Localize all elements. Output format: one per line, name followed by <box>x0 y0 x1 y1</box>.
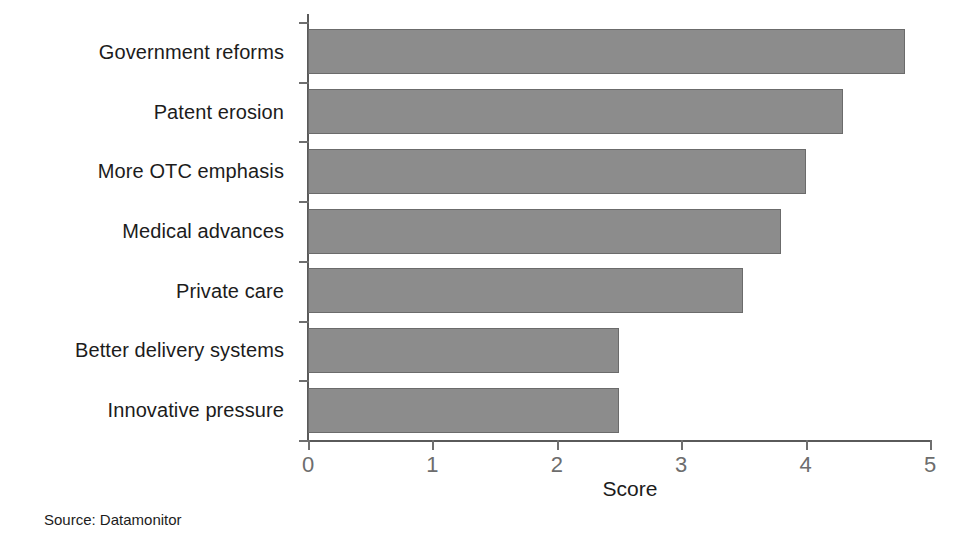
bar <box>308 209 781 254</box>
x-axis-tick-label: 1 <box>412 454 452 476</box>
category-label: Medical advances <box>122 221 284 241</box>
bar <box>308 328 619 373</box>
x-axis-tick <box>806 440 808 450</box>
chart-figure: Government reformsPatent erosionMore OTC… <box>0 0 977 547</box>
y-axis-tick <box>299 321 309 323</box>
x-axis-tick <box>308 440 310 450</box>
bar <box>308 29 905 74</box>
bar <box>308 89 843 134</box>
category-axis-labels: Government reformsPatent erosionMore OTC… <box>0 22 296 440</box>
source-note: Source: Datamonitor <box>44 512 182 527</box>
category-label: More OTC emphasis <box>98 161 284 181</box>
plot-area: 012345 <box>308 22 930 440</box>
category-label: Innovative pressure <box>108 400 284 420</box>
x-axis-tick <box>557 440 559 450</box>
x-axis-tick-label: 0 <box>288 454 328 476</box>
x-axis-tick <box>681 440 683 450</box>
y-axis-tick <box>299 82 309 84</box>
y-axis-tick <box>299 141 309 143</box>
category-label: Better delivery systems <box>75 340 284 360</box>
x-axis-tick-label: 4 <box>786 454 826 476</box>
x-axis-title: Score <box>560 478 700 499</box>
bar <box>308 149 806 194</box>
y-axis-tick <box>299 201 309 203</box>
bar <box>308 268 743 313</box>
y-axis-tick <box>299 380 309 382</box>
x-axis-line <box>307 440 931 442</box>
y-axis-tick <box>299 261 309 263</box>
y-axis-tick <box>299 22 309 24</box>
category-label: Government reforms <box>99 42 284 62</box>
x-axis-tick-label: 3 <box>661 454 701 476</box>
category-label: Patent erosion <box>154 102 284 122</box>
x-axis-tick <box>930 440 932 450</box>
category-label: Private care <box>176 281 284 301</box>
x-axis-tick-label: 5 <box>910 454 950 476</box>
x-axis-tick <box>432 440 434 450</box>
bar <box>308 388 619 433</box>
x-axis-tick-label: 2 <box>537 454 577 476</box>
